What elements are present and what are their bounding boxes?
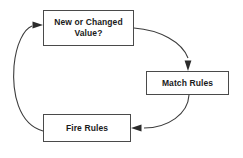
arrowhead-down-icon xyxy=(185,61,192,72)
node-match-rules[interactable]: Match Rules xyxy=(146,71,229,95)
node-new-or-changed-value-label: New or Changed Value? xyxy=(52,17,124,39)
edge-match-to-fire xyxy=(131,95,189,131)
arrowhead-right-icon xyxy=(33,22,44,29)
flowchart-diagram: New or Changed Value? Match Rules Fire R… xyxy=(0,0,243,158)
arrowhead-left-icon xyxy=(131,125,142,132)
node-match-rules-label: Match Rules xyxy=(160,78,215,89)
edge-fire-to-new xyxy=(14,22,43,131)
edge-new-to-match xyxy=(134,28,191,71)
node-new-or-changed-value[interactable]: New or Changed Value? xyxy=(43,10,134,46)
node-fire-rules-label: Fire Rules xyxy=(64,123,110,134)
node-fire-rules[interactable]: Fire Rules xyxy=(43,114,131,142)
